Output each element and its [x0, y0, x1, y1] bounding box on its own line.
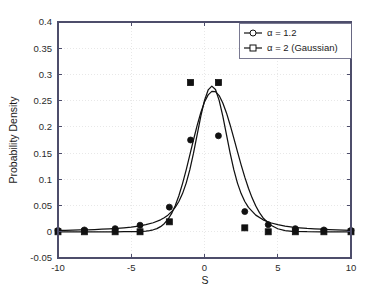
data-marker-square [166, 219, 172, 225]
data-marker-circle [137, 222, 143, 228]
data-marker-circle [242, 209, 248, 215]
x-tick-label: 10 [346, 262, 357, 273]
probability-density-plot: -10-50510 -0.0500.050.10.150.20.250.30.3… [0, 0, 371, 298]
legend-label: α = 2 (Gaussian) [267, 42, 338, 53]
x-tick-label: 5 [275, 262, 280, 273]
y-tick-label: 0.25 [34, 95, 53, 106]
legend-marker-square [250, 45, 256, 51]
y-tick-label: 0.35 [34, 43, 53, 54]
data-marker-square [292, 229, 298, 235]
data-marker-circle [166, 204, 172, 210]
data-marker-square [215, 80, 221, 86]
data-marker-square [188, 80, 194, 86]
legend-marker-circle [250, 30, 256, 36]
x-tick-label: -10 [51, 262, 65, 273]
y-tick-label: 0.4 [39, 16, 52, 27]
chart-figure: -10-50510 -0.0500.050.10.150.20.250.30.3… [0, 0, 371, 298]
data-marker-square [321, 229, 327, 235]
y-axis-title: Probability Density [7, 96, 19, 184]
data-marker-square [137, 229, 143, 235]
y-tick-label: 0.3 [39, 69, 52, 80]
x-tick-label: -5 [127, 262, 135, 273]
y-tick-label: 0 [47, 226, 52, 237]
data-marker-square [242, 225, 248, 231]
chart-legend: α = 1.2α = 2 (Gaussian) [239, 23, 351, 58]
y-tick-label: 0.2 [39, 121, 52, 132]
x-axis-title: S [201, 274, 208, 286]
x-tick-label: 0 [202, 262, 207, 273]
y-tick-label: 0.15 [34, 148, 53, 159]
data-marker-circle [215, 133, 221, 139]
data-marker-square [81, 229, 87, 235]
y-tick-label: -0.05 [30, 252, 52, 263]
y-tick-label: 0.05 [34, 200, 53, 211]
data-marker-square [265, 229, 271, 235]
data-marker-square [112, 229, 118, 235]
legend-label: α = 1.2 [267, 27, 297, 38]
y-tick-label: 0.1 [39, 174, 52, 185]
